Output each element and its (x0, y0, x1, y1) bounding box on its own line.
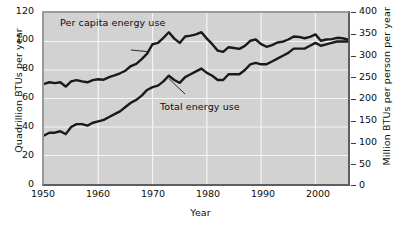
y-right-tick-150: 150 (359, 115, 389, 125)
y-right-tickmark-250 (351, 77, 356, 78)
y-left-tick-20: 20 (8, 150, 34, 160)
horizontal-gridlines (44, 42, 348, 156)
y-right-tickmark-200 (351, 99, 356, 100)
y-right-tick-350: 350 (359, 28, 389, 38)
x-tick-1990: 1990 (243, 189, 283, 199)
energy-use-chart: Quadrillion BTUs per year Million BTUs p… (0, 0, 401, 227)
plot-area (42, 11, 350, 186)
x-axis-title: Year (0, 207, 401, 218)
y-left-tick-120: 120 (8, 6, 34, 16)
x-tick-1980: 1980 (188, 189, 228, 199)
x-tick-2000: 2000 (298, 189, 338, 199)
series-line-per-capita-energy-use (44, 32, 348, 86)
y-right-tickmark-350 (351, 34, 356, 35)
y-left-tick-40: 40 (8, 121, 34, 131)
y-right-tickmark-100 (351, 143, 356, 144)
leader-line-per-capita (131, 50, 147, 52)
y-left-tick-80: 80 (8, 63, 34, 73)
y-right-tick-200: 200 (359, 93, 389, 103)
y-right-tickmark-50 (351, 164, 356, 165)
x-tick-1970: 1970 (133, 189, 173, 199)
y-right-tick-50: 50 (359, 159, 389, 169)
y-right-tick-0: 0 (359, 180, 389, 190)
y-right-tick-250: 250 (359, 72, 389, 82)
x-tick-1950: 1950 (23, 189, 63, 199)
y-left-tick-100: 100 (8, 34, 34, 44)
annotation-total-energy-use: Total energy use (160, 101, 240, 112)
y-right-tick-300: 300 (359, 50, 389, 60)
y-right-tick-100: 100 (359, 137, 389, 147)
y-right-tickmark-400 (351, 12, 356, 13)
y-right-tickmark-0 (351, 185, 356, 186)
y-right-tickmark-150 (351, 121, 356, 122)
annotation-per-capita-energy-use: Per capita energy use (60, 17, 165, 28)
y-left-tick-60: 60 (8, 92, 34, 102)
series-line-total-energy-use (44, 42, 348, 136)
plot-svg (44, 13, 348, 184)
y-right-tickmark-300 (351, 56, 356, 57)
y-right-tick-400: 400 (359, 6, 389, 16)
x-tick-1960: 1960 (78, 189, 118, 199)
